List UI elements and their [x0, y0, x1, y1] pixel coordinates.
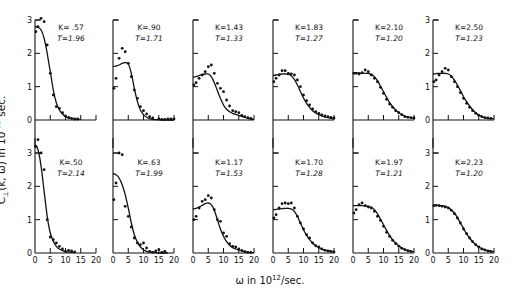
data-point — [170, 118, 173, 121]
data-point — [453, 80, 456, 83]
data-point — [275, 77, 278, 80]
data-point — [130, 226, 133, 229]
data-point — [433, 80, 436, 83]
y-tick-label: 2 — [27, 182, 32, 191]
data-point — [397, 245, 400, 248]
data-point — [456, 85, 459, 88]
data-point — [435, 79, 438, 82]
y-tick-label: 0 — [27, 116, 32, 125]
data-point — [234, 246, 237, 249]
data-point — [204, 70, 207, 73]
data-point — [195, 81, 198, 84]
data-point — [394, 109, 397, 112]
data-point — [314, 244, 317, 247]
x-tick-label: 10 — [298, 256, 308, 265]
data-point — [124, 50, 127, 53]
x-axis-label: ω in 1012/sec. — [236, 274, 305, 286]
panel-k-label: K=.90 — [137, 23, 160, 32]
data-point — [465, 102, 468, 105]
data-point — [216, 218, 219, 221]
data-point — [459, 222, 462, 225]
data-point — [273, 80, 276, 83]
data-point — [484, 249, 487, 252]
data-point — [121, 153, 124, 156]
data-point — [450, 75, 453, 78]
data-point — [296, 215, 299, 218]
data-point — [237, 248, 240, 251]
data-point — [327, 115, 330, 118]
data-point — [459, 91, 462, 94]
y-tick-label: 3 — [27, 149, 32, 158]
data-point — [391, 106, 394, 109]
y-axis-label-exp: -13 — [0, 120, 2, 131]
x-tick-label: 0 — [190, 256, 195, 265]
data-point — [302, 94, 305, 97]
data-point — [37, 138, 40, 141]
x-tick-label: 15 — [314, 256, 324, 265]
data-point — [43, 20, 46, 23]
data-point — [115, 182, 118, 185]
data-point — [201, 200, 204, 203]
data-point — [394, 242, 397, 245]
data-point — [370, 74, 373, 77]
theory-curve — [113, 174, 168, 253]
data-point — [456, 217, 459, 220]
data-point — [231, 109, 234, 112]
data-point — [237, 111, 240, 114]
data-point — [148, 115, 151, 118]
data-point — [151, 251, 154, 254]
data-point — [160, 251, 163, 254]
data-point — [435, 204, 438, 207]
theory-curve — [193, 203, 254, 253]
data-point — [136, 97, 139, 100]
data-point — [444, 206, 447, 209]
data-point — [210, 197, 213, 200]
data-point — [118, 57, 121, 60]
data-point — [407, 116, 410, 119]
y-tick-label: 3 — [425, 149, 430, 158]
data-point — [46, 218, 49, 221]
data-point — [157, 118, 160, 121]
data-point — [163, 250, 166, 253]
data-point — [379, 219, 382, 222]
panel-k-label: K=1.70 — [295, 158, 323, 167]
data-point — [308, 237, 311, 240]
x-tick-label: 20 — [409, 256, 419, 265]
data-point — [37, 25, 40, 28]
data-point — [225, 235, 228, 238]
data-point — [410, 116, 413, 119]
data-point — [447, 69, 450, 72]
data-point — [250, 117, 253, 120]
y-tick-label: 1 — [27, 216, 32, 225]
data-point — [311, 242, 314, 245]
x-tick-label: 20 — [489, 256, 499, 265]
data-point — [67, 249, 70, 252]
data-point — [228, 242, 231, 245]
data-point — [382, 92, 385, 95]
x-tick-label: 5 — [126, 256, 131, 265]
data-point — [407, 249, 410, 252]
panel-k-label: K=2.10 — [375, 23, 403, 32]
data-point — [376, 215, 379, 218]
data-point — [55, 105, 58, 108]
x-tick-label: 0 — [32, 256, 37, 265]
data-point — [355, 208, 358, 211]
data-point — [133, 89, 136, 92]
data-point — [468, 106, 471, 109]
data-point — [243, 250, 246, 253]
data-point — [40, 152, 43, 155]
data-point — [160, 118, 163, 121]
data-point — [324, 115, 327, 118]
data-point — [219, 220, 222, 223]
data-point — [49, 72, 52, 75]
data-point — [400, 247, 403, 250]
data-point — [330, 116, 333, 119]
data-point — [222, 232, 225, 235]
x-tick-label: 0 — [270, 256, 275, 265]
data-point — [213, 208, 216, 211]
data-point — [370, 207, 373, 210]
data-point — [247, 116, 250, 119]
data-point — [382, 225, 385, 228]
panel-k-label: K=2.50 — [455, 23, 483, 32]
data-point — [67, 116, 70, 119]
